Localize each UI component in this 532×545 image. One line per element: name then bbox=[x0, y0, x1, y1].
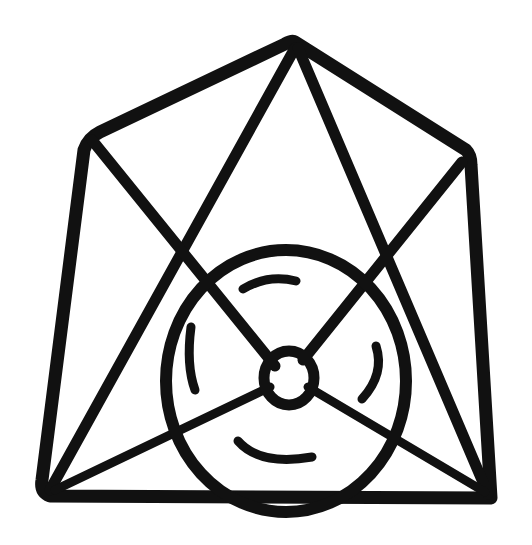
polyhedron-circle-icon bbox=[0, 0, 532, 545]
arc-top bbox=[243, 279, 296, 289]
arc-left bbox=[189, 327, 195, 390]
arc-bottom bbox=[238, 441, 312, 459]
arc-right bbox=[362, 346, 379, 399]
hub-ring bbox=[264, 351, 314, 405]
line-drawing bbox=[0, 0, 532, 545]
